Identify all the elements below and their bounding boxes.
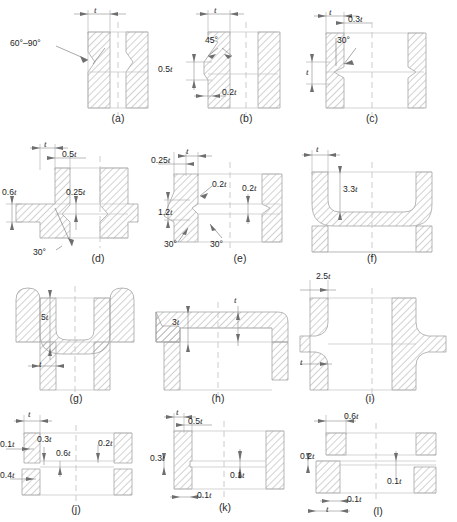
panel-c: t 0.3t 30° t (c): [300, 0, 457, 130]
panel-b-angle-45: 45°: [205, 36, 218, 45]
panel-e: t 0.25t 0.2t 0.2t 1.2t 30° 30° (e): [150, 130, 302, 270]
panel-c-caption: (c): [352, 112, 392, 124]
panel-e-dim-0-25t: 0.25t: [151, 156, 170, 165]
panel-e-thickness-t: t: [186, 147, 189, 156]
panel-j-thickness-t: t: [28, 410, 31, 419]
panel-i: 2.5t t (i): [300, 268, 457, 408]
figure-sheet: 60°–90° t (a): [0, 0, 457, 522]
panel-c-angle-30: 30°: [337, 36, 350, 45]
panel-d-dim-0-25t: 0.25t: [66, 188, 85, 197]
panel-h: t 3t (h): [150, 268, 302, 408]
panel-e-angle-30-right: 30°: [210, 240, 223, 249]
panel-l-dim-0-1t-left: 0.1t: [347, 495, 362, 504]
panel-b-caption: (b): [226, 112, 266, 124]
panel-a-thickness-t: t: [94, 6, 97, 15]
panel-e-dim-0-2t-left: 0.2t: [212, 180, 227, 189]
panel-f-dim-3-3t: 3.3t: [343, 185, 358, 194]
panel-h-caption: (h): [198, 392, 238, 404]
panel-j-dim-0-4t: 0.4t: [0, 471, 15, 480]
panel-l-dim-0-1t-right: 0.1t: [387, 477, 402, 486]
panel-a-angle-60-90: 60°–90°: [10, 39, 41, 48]
panel-h-thickness-t: t: [234, 296, 237, 305]
panel-a-caption: (a): [98, 112, 138, 124]
panel-d-dim-0-5t: 0.5t: [62, 150, 77, 159]
panel-i-thickness-t: t: [300, 358, 303, 367]
panel-a-drawing: [0, 0, 152, 130]
panel-l-dim-0-6t: 0.6t: [344, 412, 359, 421]
panel-a: 60°–90° t (a): [0, 0, 152, 130]
panel-d-dim-0-6t: 0.6t: [2, 188, 17, 197]
panel-e-drawing: [150, 130, 302, 270]
panel-k-dim-0-5t: 0.5t: [188, 417, 203, 426]
panel-j-dim-0-1t: 0.1t: [0, 440, 15, 449]
panel-i-dim-2-5t: 2.5t: [316, 272, 331, 281]
panel-d: t 0.5t 0.6t 0.25t 30° (d): [0, 130, 152, 270]
panel-g-drawing: [0, 268, 152, 408]
panel-d-angle-30: 30°: [33, 248, 46, 257]
panel-g-caption: (g): [56, 392, 96, 404]
panel-h-dim-3t: 3t: [172, 318, 179, 327]
panel-g-dim-5t: 5t: [41, 313, 48, 322]
panel-l-caption: (l): [358, 505, 398, 517]
panel-k: t 0.5t 0.3t 0.1t 0.1t (k): [150, 405, 302, 522]
panel-b: t 45° 0.5t 0.2t (b): [150, 0, 302, 130]
panel-g-thickness-t: t: [39, 360, 42, 369]
panel-k-caption: (k): [205, 501, 245, 513]
panel-b-thickness-t: t: [214, 6, 217, 15]
panel-l-thickness-t: t: [326, 505, 329, 514]
panel-j-dim-0-2t: 0.2t: [98, 439, 113, 448]
panel-f-caption: (f): [352, 252, 392, 264]
panel-k-dim-0-1t-right: 0.1t: [230, 471, 245, 480]
panel-e-dim-0-2t-right: 0.2t: [242, 184, 257, 193]
panel-c-thickness-t-left: t: [306, 68, 309, 77]
panel-e-dim-1-2t: 1.2t: [158, 208, 173, 217]
panel-d-caption: (d): [78, 252, 118, 264]
panel-c-dim-0-3t: 0.3t: [348, 15, 363, 24]
panel-k-dim-0-3t: 0.3t: [150, 454, 165, 463]
panel-i-caption: (i): [350, 392, 390, 404]
panel-j-caption: (j): [56, 503, 96, 515]
panel-l-dim-0-2t: 0.2t: [300, 452, 315, 461]
panel-g: 5t t (g): [0, 268, 152, 408]
panel-c-drawing: [300, 0, 457, 130]
panel-f-thickness-t: t: [316, 145, 319, 154]
panel-j-dim-0-3t: 0.3t: [37, 435, 52, 444]
panel-b-dim-0-2t: 0.2t: [222, 88, 237, 97]
panel-k-dim-0-1t-bottom: 0.1t: [197, 491, 212, 500]
panel-h-drawing: [150, 268, 302, 408]
panel-i-drawing: [300, 268, 457, 408]
panel-j-dim-0-6t: 0.6t: [56, 449, 71, 458]
panel-e-angle-30-left: 30°: [164, 240, 177, 249]
panel-k-thickness-t: t: [176, 408, 179, 417]
panel-l: 0.6t 0.2t 0.1t 0.1t t (l): [300, 405, 457, 522]
panel-f: t 3.3t (f): [300, 130, 457, 270]
panel-j: t 0.1t 0.3t 0.6t 0.2t 0.4t (j): [0, 405, 152, 522]
panel-e-caption: (e): [220, 252, 260, 264]
panel-c-thickness-t-top: t: [329, 8, 332, 17]
panel-f-drawing: [300, 130, 457, 270]
panel-d-thickness-t: t: [44, 140, 47, 149]
panel-b-dim-0-5t: 0.5t: [158, 65, 173, 74]
